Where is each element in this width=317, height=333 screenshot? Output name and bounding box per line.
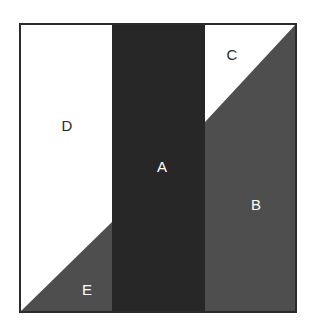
geometry-figure: A B C D E (0, 0, 317, 333)
region-c-label: C (227, 46, 238, 63)
figure-root: A B C D E (0, 0, 317, 333)
region-b-label: B (251, 196, 261, 213)
region-e-label: E (82, 281, 92, 298)
region-a-label: A (157, 158, 167, 175)
region-d-label: D (62, 117, 73, 134)
